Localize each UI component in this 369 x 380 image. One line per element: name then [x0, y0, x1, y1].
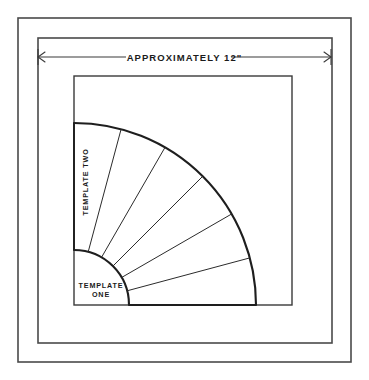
template-layout-diagram: APPROXIMATELY 12" TEMPLATE TWO TEMPLATE … — [0, 0, 369, 380]
template-two-label: TEMPLATE TWO — [81, 148, 90, 215]
diagram-root: APPROXIMATELY 12" TEMPLATE TWO TEMPLATE … — [0, 0, 369, 380]
template-one-label-line2: ONE — [92, 290, 110, 299]
template-one-label-line1: TEMPLATE — [79, 281, 124, 290]
dimension-label: APPROXIMATELY 12" — [127, 52, 243, 63]
